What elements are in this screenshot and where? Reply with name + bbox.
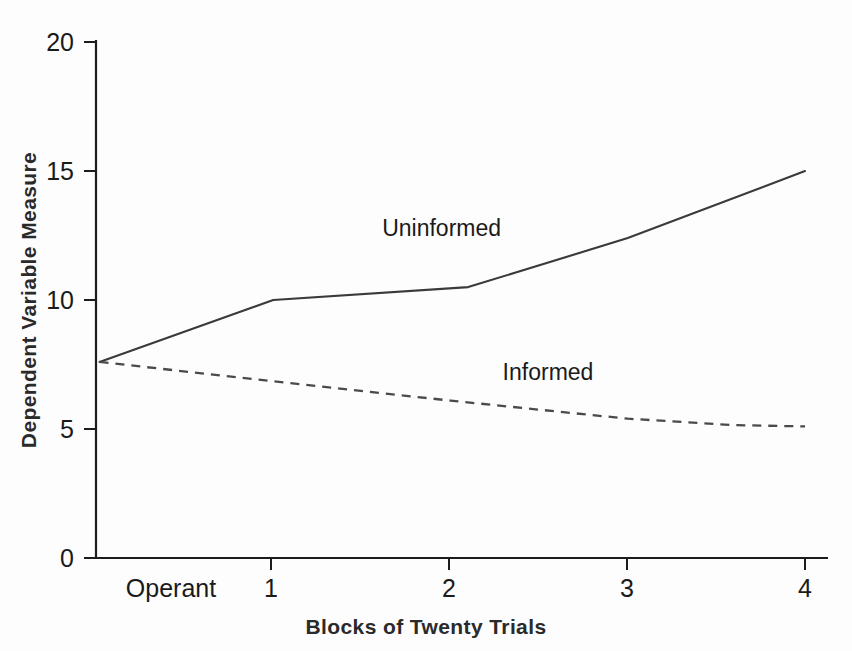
figure-container: 20 15 10 5 0 Operant 1 2 3 4 Uninformed … bbox=[0, 0, 852, 651]
series-label-uninformed: Uninformed bbox=[382, 215, 501, 241]
x-tick-label-3: 3 bbox=[620, 574, 634, 602]
series-line-informed bbox=[100, 362, 805, 427]
x-axis-title: Blocks of Twenty Trials bbox=[305, 615, 546, 638]
y-axis-ticks bbox=[84, 42, 96, 558]
y-tick-label-10: 10 bbox=[46, 286, 74, 314]
y-tick-label-5: 5 bbox=[60, 415, 74, 443]
y-tick-label-15: 15 bbox=[46, 157, 74, 185]
y-axis-tick-labels: 20 15 10 5 0 bbox=[46, 28, 74, 572]
x-axis-ticks bbox=[271, 558, 805, 570]
series-line-uninformed bbox=[100, 171, 805, 362]
y-tick-label-20: 20 bbox=[46, 28, 74, 56]
x-tick-label-1: 1 bbox=[264, 574, 278, 602]
line-chart: 20 15 10 5 0 Operant 1 2 3 4 Uninformed … bbox=[0, 0, 852, 651]
x-tick-label-4: 4 bbox=[798, 574, 812, 602]
x-tick-label-operant: Operant bbox=[126, 574, 216, 602]
y-axis-title: Dependent Variable Measure bbox=[17, 152, 40, 448]
y-tick-label-0: 0 bbox=[60, 544, 74, 572]
x-axis-tick-labels: Operant 1 2 3 4 bbox=[126, 574, 812, 602]
series-label-informed: Informed bbox=[503, 359, 594, 385]
x-tick-label-2: 2 bbox=[442, 574, 456, 602]
